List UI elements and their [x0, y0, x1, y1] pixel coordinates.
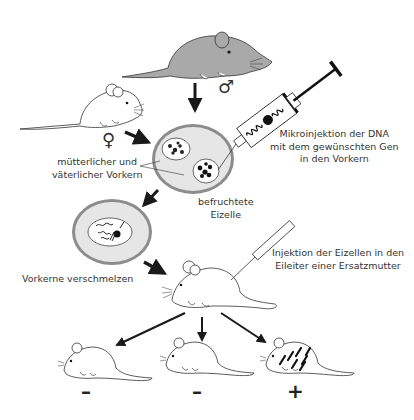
arrow-female-to-egg	[125, 132, 148, 142]
fertilized-egg-icon	[152, 124, 234, 194]
male-symbol-icon: ♂	[218, 78, 234, 96]
pronuclei-label: mütterlicher und väterlicher Vorkern	[52, 156, 142, 181]
offspring-2-sign: –	[192, 381, 202, 401]
fertilized-egg-label-line1: befruchtete	[198, 196, 254, 209]
microinjection-label: Mikroinjektion der DNA mit dem gewünscht…	[270, 128, 399, 166]
offspring-mouse-1-icon	[58, 343, 152, 381]
pronuclei-label-line1: mütterlicher und	[52, 156, 142, 169]
microinjection-label-line2: mit dem gewünschten Gen	[270, 141, 399, 154]
offspring-mouse-2-icon	[160, 338, 254, 376]
transfer-label: Injektion der Eizellen in den Eileiter e…	[272, 247, 404, 272]
fertilized-egg-label-line2: Eizelle	[198, 209, 254, 222]
male-mouse-icon	[122, 32, 272, 79]
pronuclei-label-line2: väterlicher Vorkern	[52, 169, 142, 182]
transfer-label-line1: Injektion der Eizellen in den	[272, 247, 404, 260]
female-mouse-icon	[20, 84, 144, 129]
offspring-3-sign: +	[287, 381, 304, 401]
fusion-label: Vorkerne verschmelzen	[22, 273, 133, 286]
transfer-label-line2: Eileiter einer Ersatzmutter	[272, 260, 404, 273]
female-symbol-icon: ♀	[102, 131, 115, 149]
offspring-1-sign: –	[81, 381, 91, 401]
surrogate-mother-mouse-icon	[162, 261, 276, 309]
microinjection-label-line1: Mikroinjektion der DNA	[270, 128, 399, 141]
fertilized-egg-label: befruchtete Eizelle	[198, 196, 254, 221]
zygote-egg-icon	[72, 199, 152, 265]
offspring-mouse-3-transgenic-icon	[260, 338, 354, 376]
microinjection-label-line3: in den Vorkern	[270, 153, 399, 166]
